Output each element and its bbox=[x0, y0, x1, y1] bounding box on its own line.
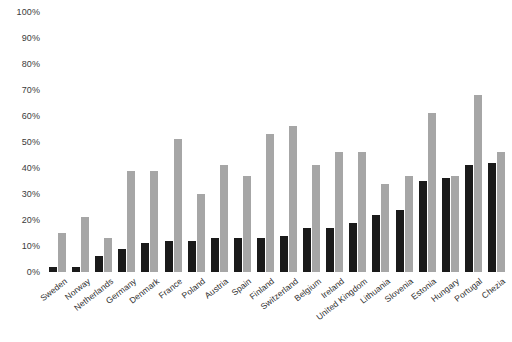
x-axis-tick-label: Chezia bbox=[480, 276, 507, 301]
bar-group bbox=[92, 12, 115, 272]
bar-light bbox=[497, 152, 505, 272]
y-axis-tick-label: 60% bbox=[22, 111, 40, 121]
bar-dark bbox=[488, 163, 496, 272]
bar-light bbox=[243, 176, 251, 272]
bar-dark bbox=[372, 215, 380, 272]
bar-group bbox=[208, 12, 231, 272]
bar-dark bbox=[465, 165, 473, 272]
bar-dark bbox=[188, 241, 196, 272]
x-axis-tick-label: Poland bbox=[180, 276, 207, 301]
bar-light bbox=[358, 152, 366, 272]
bar-dark bbox=[349, 223, 357, 272]
y-axis-tick-label: 30% bbox=[22, 189, 40, 199]
bar-light bbox=[381, 184, 389, 272]
bar-group bbox=[138, 12, 161, 272]
bar-group bbox=[416, 12, 439, 272]
bar-group bbox=[300, 12, 323, 272]
bar-light bbox=[451, 176, 459, 272]
y-axis-tick-label: 50% bbox=[22, 137, 40, 147]
bar-group bbox=[439, 12, 462, 272]
bar-dark bbox=[396, 210, 404, 272]
bar-dark bbox=[95, 256, 103, 272]
y-axis-tick-label: 100% bbox=[17, 7, 40, 17]
bar-light bbox=[150, 171, 158, 272]
bar-dark bbox=[234, 238, 242, 272]
y-axis-tick-label: 80% bbox=[22, 59, 40, 69]
bar-group bbox=[231, 12, 254, 272]
bar-dark bbox=[257, 238, 265, 272]
bar-group bbox=[254, 12, 277, 272]
bar-dark bbox=[165, 241, 173, 272]
bar-light bbox=[104, 238, 112, 272]
bar-light bbox=[197, 194, 205, 272]
bar-group bbox=[277, 12, 300, 272]
bar-group bbox=[46, 12, 69, 272]
bar-light bbox=[174, 139, 182, 272]
bar-light bbox=[405, 176, 413, 272]
bar-chart: 0%10%20%30%40%50%60%70%80%90%100% Sweden… bbox=[0, 0, 512, 342]
y-axis-tick-label: 0% bbox=[27, 267, 40, 277]
bar-group bbox=[369, 12, 392, 272]
bar-light bbox=[312, 165, 320, 272]
bar-light bbox=[58, 233, 66, 272]
y-axis-tick-label: 20% bbox=[22, 215, 40, 225]
y-axis: 0%10%20%30%40%50%60%70%80%90%100% bbox=[0, 0, 46, 342]
bar-dark bbox=[280, 236, 288, 272]
bar-group bbox=[185, 12, 208, 272]
bar-light bbox=[127, 171, 135, 272]
bar-light bbox=[335, 152, 343, 272]
bar-group bbox=[346, 12, 369, 272]
bar-light bbox=[81, 217, 89, 272]
bar-group bbox=[462, 12, 485, 272]
bar-light bbox=[474, 95, 482, 272]
bar-dark bbox=[211, 238, 219, 272]
bar-light bbox=[220, 165, 228, 272]
bar-dark bbox=[419, 181, 427, 272]
y-axis-tick-label: 10% bbox=[22, 241, 40, 251]
y-axis-tick-label: 90% bbox=[22, 33, 40, 43]
bar-group bbox=[485, 12, 508, 272]
bar-light bbox=[266, 134, 274, 272]
bar-dark bbox=[303, 228, 311, 272]
bar-dark bbox=[326, 228, 334, 272]
bar-group bbox=[69, 12, 92, 272]
x-axis-tick-label: Austria bbox=[203, 276, 231, 301]
bar-light bbox=[289, 126, 297, 272]
bar-dark bbox=[141, 243, 149, 272]
bar-dark bbox=[118, 249, 126, 272]
bar-group bbox=[115, 12, 138, 272]
bar-light bbox=[428, 113, 436, 272]
bar-group bbox=[162, 12, 185, 272]
plot-area bbox=[46, 12, 508, 272]
x-axis-tick-label: France bbox=[157, 276, 184, 301]
x-axis: SwedenNorwayNetherlandsGermanyDenmarkFra… bbox=[46, 272, 508, 342]
bar-group bbox=[323, 12, 346, 272]
y-axis-tick-label: 70% bbox=[22, 85, 40, 95]
y-axis-tick-label: 40% bbox=[22, 163, 40, 173]
bar-dark bbox=[442, 178, 450, 272]
bar-group bbox=[393, 12, 416, 272]
